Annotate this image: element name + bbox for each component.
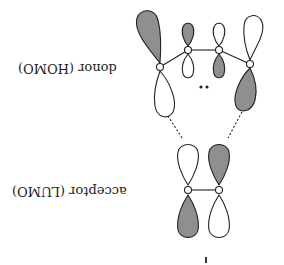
orbital-svg <box>0 0 284 265</box>
interaction-dash-right <box>228 112 242 138</box>
donor-atom-3 <box>216 47 223 54</box>
acceptor-lobe-left-lower <box>178 195 199 238</box>
donor-lobe-right-lower <box>235 68 256 111</box>
acceptor-atom-2 <box>216 187 223 194</box>
donor-atom-1 <box>157 64 164 71</box>
donor-lobe-left-lower <box>154 71 174 117</box>
acceptor-lobe-left-upper <box>178 145 199 186</box>
donor-lobe-right-upper <box>244 16 263 60</box>
donor-homo-label: donor (HOMO) <box>18 61 117 76</box>
acceptor-lobe-right-upper <box>209 145 230 186</box>
interaction-dash-left <box>168 116 182 138</box>
donor-atom-4 <box>247 61 254 68</box>
donor-lobe-inner1-upper <box>182 23 194 46</box>
acceptor-lobe-right-lower <box>209 195 230 238</box>
donor-lobe-inner1-lower <box>182 54 194 78</box>
donor-lobe-left-upper <box>136 11 160 63</box>
lone-pair-icon <box>199 85 208 88</box>
donor-atom-2 <box>185 47 192 54</box>
partial-glyph <box>205 257 207 263</box>
acceptor-lumo-label: acceptor (LUMO) <box>12 184 127 199</box>
orbital-diagram: donor (HOMO) acceptor (LUMO) <box>0 0 284 265</box>
donor-lobe-inner2-upper <box>213 23 225 46</box>
acceptor-atom-1 <box>185 187 192 194</box>
donor-lobe-inner2-lower <box>213 54 225 78</box>
